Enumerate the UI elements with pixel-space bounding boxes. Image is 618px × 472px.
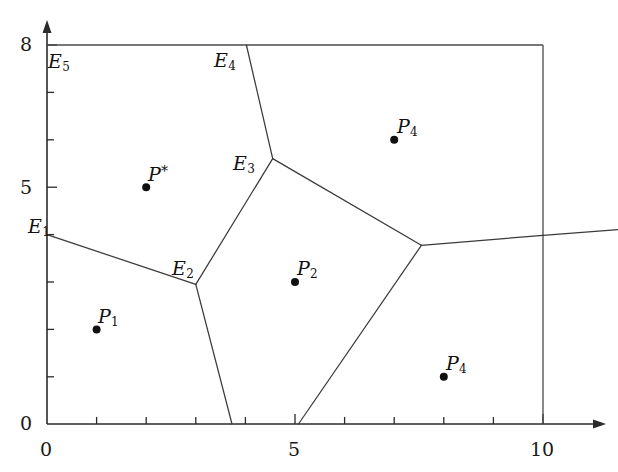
x-tick-label-0: 0: [40, 438, 52, 460]
plot-frame-group: [47, 45, 543, 424]
label-Pstar-base: P: [148, 163, 161, 185]
label-P4-upper-base: P: [397, 115, 410, 137]
edge-E2-to-bottom: [196, 284, 232, 424]
y-tick-label-8: 8: [20, 33, 32, 55]
label-E5-sub: 5: [62, 60, 70, 74]
label-P4-lower: P4: [446, 352, 467, 376]
y-ticks-group: [47, 45, 57, 377]
label-E1: E1: [28, 215, 50, 239]
x-ticks-group: [97, 414, 543, 424]
label-Pstar-sup: *: [161, 163, 168, 179]
label-E3-base: E: [233, 152, 247, 174]
label-E5: E5: [48, 50, 70, 74]
label-P1-sub: 1: [111, 315, 119, 329]
x-tick-label-10: 10: [530, 438, 554, 460]
plot-canvas: [0, 0, 618, 472]
edge-E3-E4: [246, 45, 272, 159]
x-axis-arrowhead: [593, 420, 606, 429]
edge-E2-E3: [196, 159, 273, 285]
label-P4-upper: P4: [397, 115, 418, 139]
label-E3-sub: 3: [247, 162, 255, 176]
label-E4-base: E: [214, 49, 228, 71]
y-tick-label-5: 5: [20, 176, 32, 198]
edge-beyond-right-frame: [543, 230, 618, 236]
label-E2-sub: 2: [186, 267, 194, 281]
site-dots-group: [93, 136, 448, 381]
label-E2-base: E: [172, 257, 186, 279]
edge-right-vertex-to-frame: [421, 235, 543, 245]
label-Pstar: P*: [148, 163, 168, 185]
voronoi-edges-group: [47, 45, 618, 424]
label-P1-base: P: [98, 305, 111, 327]
label-P2-base: P: [297, 257, 310, 279]
label-P2-sub: 2: [310, 267, 318, 281]
voronoi-figure: 8 5 0 0 5 10 E5 E4 E3 E1 E2 P* P1 P2 P4 …: [0, 0, 618, 472]
label-E3: E3: [233, 152, 255, 176]
label-E1-sub: 1: [42, 225, 50, 239]
label-E4-sub: 4: [228, 59, 236, 73]
label-P1: P1: [98, 305, 119, 329]
label-P4-lower-base: P: [446, 352, 459, 374]
label-P4-lower-sub: 4: [459, 362, 467, 376]
x-tick-label-5: 5: [288, 438, 300, 460]
label-E1-base: E: [28, 215, 42, 237]
label-E4: E4: [214, 49, 236, 73]
axes-group: [43, 20, 607, 429]
edge-E3-to-right-vertex: [273, 159, 422, 246]
y-tick-label-0: 0: [20, 412, 32, 434]
label-P2: P2: [297, 257, 318, 281]
y-axis-arrowhead: [43, 20, 52, 33]
label-E2: E2: [172, 257, 194, 281]
label-P4-upper-sub: 4: [410, 125, 418, 139]
label-E5-base: E: [48, 50, 62, 72]
